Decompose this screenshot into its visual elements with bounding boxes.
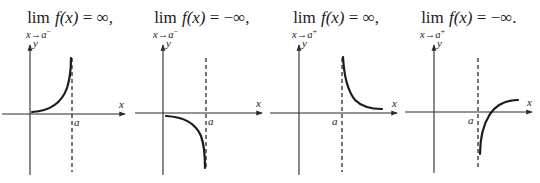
function-curve [166, 116, 205, 168]
asymptote-label: a [74, 116, 80, 128]
asymptote-label: a [208, 115, 214, 127]
y-axis-label: y [32, 37, 38, 49]
asymptote-label: a [332, 115, 338, 127]
limit-graphs: y x a y x a y x a y x a [0, 0, 540, 183]
y-axis-label: y [301, 37, 307, 49]
x-axis-label: x [255, 97, 261, 109]
graph-1: y x a [2, 37, 125, 175]
x-axis-label: x [391, 97, 397, 109]
function-curve [343, 57, 382, 109]
graph-2: y x a [135, 37, 262, 175]
y-axis-label: y [436, 37, 442, 49]
graph-4: y x a [405, 37, 532, 173]
graph-3: y x a [270, 37, 397, 175]
x-axis-label: x [118, 98, 124, 110]
function-curve [480, 100, 518, 154]
asymptote-label: a [468, 114, 474, 126]
function-curve [32, 58, 71, 112]
x-axis-label: x [526, 96, 532, 108]
y-axis-label: y [165, 37, 171, 49]
